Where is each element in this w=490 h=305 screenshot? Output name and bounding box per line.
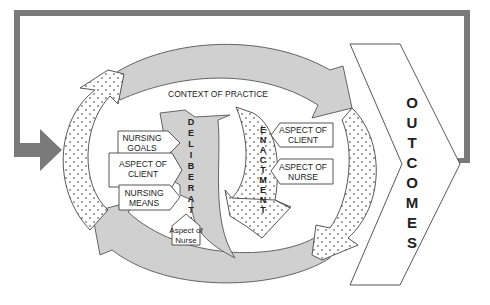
svg-text:T: T	[407, 134, 416, 151]
aspect-of-client-box: ASPECT OF CLIENT	[109, 153, 182, 187]
svg-text:A: A	[260, 145, 267, 155]
svg-text:E: E	[188, 128, 194, 138]
top-cycle-arrow	[108, 44, 352, 118]
svg-text:T: T	[260, 165, 266, 175]
svg-text:E: E	[260, 185, 266, 195]
svg-text:E: E	[188, 172, 194, 182]
svg-text:ASPECT OF: ASPECT OF	[279, 162, 327, 172]
svg-text:C: C	[407, 154, 418, 171]
nursing-practice-diagram: CONTEXT OF PRACTICE D E L I B E R A T I …	[0, 0, 490, 305]
svg-text:T: T	[260, 205, 266, 215]
svg-text:N: N	[260, 195, 267, 205]
svg-text:N: N	[260, 135, 267, 145]
svg-text:M: M	[406, 194, 419, 211]
svg-text:NURSE: NURSE	[288, 172, 318, 182]
context-label: CONTEXT OF PRACTICE	[168, 89, 268, 99]
enactment-aspect-of-client-box: ASPECT OF CLIENT	[271, 123, 333, 147]
svg-text:C: C	[260, 155, 267, 165]
nursing-goals-box: NURSING GOALS	[118, 131, 180, 155]
svg-text:Aspect of: Aspect of	[169, 226, 203, 235]
svg-text:L: L	[188, 139, 194, 149]
svg-text:R: R	[188, 183, 195, 193]
svg-text:MEANS: MEANS	[129, 198, 160, 208]
svg-text:ASPECT OF: ASPECT OF	[119, 159, 167, 169]
svg-text:ASPECT OF: ASPECT OF	[279, 125, 327, 135]
svg-text:U: U	[407, 114, 418, 131]
svg-text:GOALS: GOALS	[127, 143, 157, 153]
svg-text:NURSING: NURSING	[122, 133, 161, 143]
svg-text:CLIENT: CLIENT	[128, 169, 158, 179]
svg-text:B: B	[188, 161, 195, 171]
enactment-letters: E N A C T M E N T	[259, 125, 267, 215]
svg-text:CLIENT: CLIENT	[288, 135, 318, 145]
svg-text:M: M	[259, 175, 267, 185]
enactment-aspect-of-nurse-box: ASPECT OF NURSE	[271, 159, 333, 184]
svg-text:NURSING: NURSING	[124, 188, 163, 198]
svg-text:O: O	[406, 94, 418, 111]
svg-text:S: S	[407, 234, 417, 251]
svg-text:Nurse: Nurse	[175, 236, 197, 245]
svg-text:I: I	[190, 150, 193, 160]
svg-text:E: E	[407, 214, 417, 231]
svg-text:T: T	[188, 205, 194, 215]
svg-text:D: D	[188, 117, 195, 127]
svg-text:A: A	[188, 194, 195, 204]
svg-text:E: E	[260, 125, 266, 135]
nursing-means-box: NURSING MEANS	[119, 185, 180, 210]
svg-text:O: O	[406, 174, 418, 191]
